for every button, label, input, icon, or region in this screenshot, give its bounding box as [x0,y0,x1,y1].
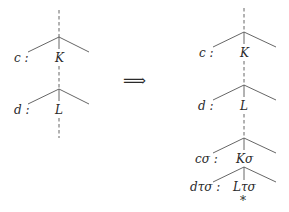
right-l-branch-left [213,85,244,100]
asterisk-marker: * [240,194,246,208]
right-tree: K c : L d : Kσ cσ : Lτσ dτσ : * [190,8,276,208]
right-node-ksigma-sublabel: cσ : [195,152,218,166]
right-ksigma-branch-left [213,138,244,153]
right-node-ltausigma-label: Lτσ [232,180,257,194]
left-l-branch-right [59,89,89,104]
right-ksigma-branch-right [244,138,276,153]
right-node-l-label: L [239,99,248,113]
diagram-canvas: K c : L d : ⟹ K c : L d : Kσ cσ : Lτσ [0,0,289,212]
right-k-branch-right [244,32,276,47]
left-node-k-label: K [54,51,65,65]
right-node-k-sublabel: c : [199,46,214,60]
left-l-branch-left [28,89,59,104]
left-k-branch-right [59,37,89,52]
right-node-l-sublabel: d : [198,99,214,113]
implies-arrow: ⟹ [123,71,146,90]
right-node-ltausigma-sublabel: dτσ : [190,180,220,194]
right-k-branch-left [213,32,244,47]
left-tree: K c : L d : [14,10,89,138]
right-node-ksigma-label: Kσ [235,152,254,166]
left-node-l-label: L [54,103,63,117]
left-node-k-sublabel: c : [14,51,29,65]
right-node-k-label: K [239,46,250,60]
right-l-branch-right [244,85,276,100]
left-k-branch-left [28,37,59,52]
left-node-l-sublabel: d : [14,103,30,117]
